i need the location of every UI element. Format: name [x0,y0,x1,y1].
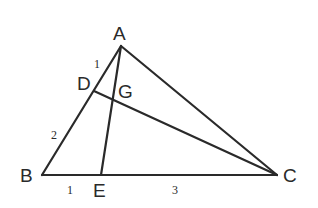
point-label-d: D [77,73,91,94]
length-label-be: 1 [67,183,73,197]
segment-ac [121,46,277,175]
point-label-e: E [93,180,106,201]
point-label-a: A [113,23,126,44]
segment-ab [42,46,121,175]
segment-dc [94,91,277,175]
point-label-b: B [20,165,33,186]
point-label-g: G [118,81,133,102]
triangle-diagram: A B C D E G 1 2 1 3 [0,0,318,208]
length-label-db: 2 [51,128,57,142]
segment-ae [101,46,121,175]
length-label-ad: 1 [94,57,100,71]
point-label-c: C [283,165,297,186]
length-label-ec: 3 [172,183,178,197]
